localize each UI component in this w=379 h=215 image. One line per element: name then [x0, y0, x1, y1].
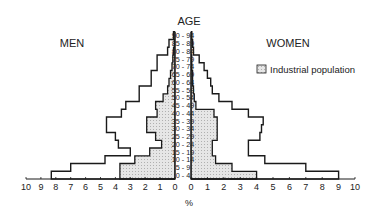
women-tick-label: 0	[188, 182, 193, 192]
age-group-label: 70 - 74	[172, 62, 194, 71]
women-tick-label: 10	[350, 182, 360, 192]
women-label: WOMEN	[266, 37, 309, 49]
women-tick-label: 2	[221, 182, 226, 192]
percent-axis-label: %	[185, 198, 193, 208]
age-group-label: 10 - 14	[172, 155, 194, 164]
legend-label: Industrial population	[270, 64, 355, 75]
women-tick-label: 3	[238, 182, 243, 192]
men-industrial-shape	[120, 32, 175, 179]
women-tick-label: 1	[205, 182, 210, 192]
women-tick-label: 4	[254, 182, 259, 192]
men-tick-label: 7	[68, 182, 73, 192]
age-group-label: 55 - 59	[172, 86, 194, 95]
legend-swatch	[257, 65, 266, 73]
women-tick-label: 7	[303, 182, 308, 192]
men-tick-label: 2	[143, 182, 148, 192]
women-industrial-area	[191, 32, 257, 179]
age-axis-label: AGE	[177, 15, 200, 27]
population-pyramid-chart: MEN WOMEN AGE % Industrial population 0 …	[0, 0, 379, 215]
age-group-label: 15 - 19	[172, 148, 194, 157]
age-group-label: 40 - 44	[172, 109, 194, 118]
women-tick-label: 8	[320, 182, 325, 192]
age-group-label: 0 - 4	[176, 171, 190, 180]
age-group-label: 20 - 24	[172, 140, 194, 149]
age-group-label: 65 - 69	[172, 70, 194, 79]
age-group-label: 90 - 94	[172, 31, 194, 40]
men-tick-label: 4	[113, 182, 118, 192]
age-group-label: 30 - 34	[172, 124, 194, 133]
men-tick-label: 3	[128, 182, 133, 192]
women-tick-label: 5	[270, 182, 275, 192]
age-group-label: 25 - 29	[172, 132, 194, 141]
men-industrial-area	[120, 32, 175, 179]
women-tick-label: 6	[287, 182, 292, 192]
age-group-label: 35 - 39	[172, 117, 194, 126]
age-group-label: 50 - 54	[172, 93, 194, 102]
age-group-label: 85 - 89	[172, 39, 194, 48]
men-tick-label: 6	[83, 182, 88, 192]
men-tick-label: 5	[98, 182, 103, 192]
men-tick-label: 0	[172, 182, 177, 192]
legend: Industrial population	[257, 64, 355, 75]
women-tick-label: 9	[336, 182, 341, 192]
age-group-label: 75 - 79	[172, 55, 194, 64]
age-group-label: 45 - 49	[172, 101, 194, 110]
men-tick-label: 9	[38, 182, 43, 192]
age-group-label: 5 - 9	[176, 163, 190, 172]
age-group-label: 80 - 84	[172, 47, 194, 56]
age-group-labels: 0 - 45 - 910 - 1415 - 1920 - 2425 - 2930…	[172, 31, 194, 180]
age-group-label: 60 - 64	[172, 78, 194, 87]
men-label: MEN	[60, 37, 85, 49]
men-tick-label: 10	[21, 182, 31, 192]
men-tick-label: 8	[53, 182, 58, 192]
men-tick-label: 1	[158, 182, 163, 192]
women-industrial-shape	[191, 32, 257, 179]
